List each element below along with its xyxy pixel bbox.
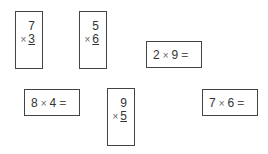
multiplicand: 9 <box>120 97 127 109</box>
problem-card-1: 7 ×3 <box>15 11 43 69</box>
multiplier: 5 <box>120 109 127 123</box>
equals-sign: = <box>237 96 244 110</box>
equals-sign: = <box>59 96 66 110</box>
times-sign: × <box>84 34 90 45</box>
multiplier-row: ×3 <box>20 33 35 46</box>
multiplier: 3 <box>28 32 35 46</box>
multiplicand: 5 <box>92 20 99 32</box>
operand-b: 6 <box>228 96 235 110</box>
times-sign: × <box>41 98 47 109</box>
operand-b: 9 <box>172 48 179 62</box>
equation: 8×4= <box>31 97 66 110</box>
operand-a: 7 <box>209 96 216 110</box>
equation: 7×6= <box>209 97 244 110</box>
operand-a: 2 <box>153 48 160 62</box>
problem-card-3: 2×9= <box>146 41 202 68</box>
times-sign: × <box>20 34 26 45</box>
problem-card-4: 8×4= <box>24 89 80 116</box>
equals-sign: = <box>181 48 188 62</box>
times-sign: × <box>219 98 225 109</box>
times-sign: × <box>112 111 118 122</box>
operand-b: 4 <box>50 96 57 110</box>
problem-card-2: 5 ×6 <box>79 11 107 69</box>
operand-a: 8 <box>31 96 38 110</box>
multiplicand: 7 <box>28 20 35 32</box>
equation: 2×9= <box>153 49 188 62</box>
times-sign: × <box>163 50 169 61</box>
multiplier: 6 <box>92 32 99 46</box>
problem-card-5: 9 ×5 <box>107 88 135 146</box>
multiplier-row: ×6 <box>84 33 99 46</box>
multiplier-row: ×5 <box>112 110 127 123</box>
problem-card-6: 7×6= <box>202 89 258 116</box>
